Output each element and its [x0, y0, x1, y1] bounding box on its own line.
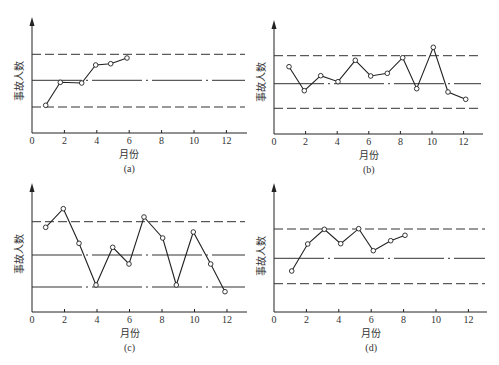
- x-tick-label: 4: [336, 314, 341, 325]
- x-tick-label: 0: [272, 314, 277, 325]
- panel-b-label: (b): [363, 164, 375, 176]
- data-point-marker: [160, 236, 165, 241]
- x-tick-label: 6: [127, 314, 132, 325]
- data-point-marker: [223, 289, 228, 294]
- panel-a-series: [43, 56, 129, 108]
- panel-c-data-line: [46, 209, 225, 292]
- data-point-marker: [58, 80, 63, 85]
- data-point-marker: [414, 86, 419, 91]
- panel-c-control-lines: [32, 222, 245, 287]
- x-tick-label: 2: [62, 135, 67, 146]
- data-point-marker: [400, 55, 405, 60]
- panel-d-y-axis-title: 事故人数: [255, 236, 267, 276]
- data-point-marker: [108, 61, 113, 66]
- data-point-marker: [305, 242, 310, 247]
- x-tick-label: 10: [190, 314, 200, 325]
- x-tick-label: 0: [272, 136, 277, 147]
- y-axis-arrow-icon: [30, 17, 35, 26]
- data-point-marker: [174, 283, 179, 288]
- panel-d-data-line: [292, 229, 405, 271]
- data-point-marker: [127, 262, 132, 267]
- data-point-marker: [93, 63, 98, 68]
- panel-d-x-axis-title: 月份: [361, 328, 381, 339]
- panel-b-x-axis-title: 月份: [359, 150, 379, 161]
- control-chart-figure: 024681012 事故人数 月份 (a) 024681012 事故人数 月份 …: [0, 0, 499, 365]
- panel-c-axes: 024681012: [30, 183, 248, 325]
- panel-b-data-line: [289, 47, 466, 99]
- data-point-marker: [61, 206, 66, 211]
- data-point-marker: [43, 225, 48, 230]
- panel-a-y-axis-title: 事故人数: [13, 61, 25, 101]
- panel-c-y-axis-title: 事故人数: [13, 234, 25, 274]
- data-point-marker: [322, 227, 327, 232]
- panel-a-label: (a): [124, 163, 135, 175]
- x-tick-label: 4: [335, 136, 340, 147]
- data-point-marker: [385, 71, 390, 76]
- panel-c-x-axis-title: 月份: [120, 328, 140, 339]
- x-tick-label: 10: [189, 135, 199, 146]
- x-tick-label: 10: [431, 314, 441, 325]
- panel-b: 024681012 事故人数 月份 (b): [255, 20, 483, 176]
- x-tick-label: 2: [62, 314, 67, 325]
- panel-b-control-lines: [274, 56, 481, 109]
- panel-a: 024681012 事故人数 月份 (a): [13, 17, 247, 175]
- panel-a-x-axis-title: 月份: [119, 149, 139, 160]
- panel-a-control-lines: [32, 54, 245, 107]
- x-tick-label: 10: [427, 136, 437, 147]
- y-axis-arrow-icon: [30, 183, 35, 192]
- x-tick-label: 4: [94, 135, 99, 146]
- data-point-marker: [94, 283, 99, 288]
- x-tick-label: 6: [127, 135, 132, 146]
- data-point-marker: [208, 262, 213, 267]
- y-axis-arrow-icon: [272, 20, 277, 29]
- panel-d-control-lines: [274, 229, 485, 284]
- data-point-marker: [353, 58, 358, 63]
- data-point-marker: [431, 45, 436, 50]
- data-point-marker: [191, 230, 196, 235]
- y-axis-arrow-icon: [272, 183, 277, 192]
- panel-d: 024681012 事故人数 月份 (d): [255, 183, 487, 354]
- x-tick-label: 12: [463, 314, 473, 325]
- data-point-marker: [356, 226, 361, 231]
- panel-c-label: (c): [124, 342, 135, 354]
- data-point-marker: [403, 233, 408, 238]
- x-tick-label: 2: [303, 136, 308, 147]
- data-point-marker: [446, 90, 451, 95]
- panel-b-series: [287, 45, 468, 102]
- x-tick-label: 8: [160, 314, 165, 325]
- data-point-marker: [142, 215, 147, 220]
- data-point-marker: [287, 64, 292, 69]
- data-point-marker: [110, 245, 115, 250]
- x-tick-label: 0: [30, 135, 35, 146]
- data-point-marker: [368, 74, 373, 79]
- x-tick-label: 12: [222, 314, 232, 325]
- x-tick-label: 6: [366, 136, 371, 147]
- data-point-marker: [371, 248, 376, 253]
- x-tick-label: 12: [221, 135, 231, 146]
- panel-b-y-axis-title: 事故人数: [255, 62, 267, 102]
- x-tick-label: 8: [398, 136, 403, 147]
- panel-d-series: [289, 226, 407, 273]
- data-point-marker: [289, 269, 294, 274]
- x-tick-label: 0: [30, 314, 35, 325]
- data-point-marker: [77, 241, 82, 246]
- data-point-marker: [338, 241, 343, 246]
- x-tick-label: 2: [304, 314, 309, 325]
- data-point-marker: [125, 56, 130, 61]
- data-point-marker: [463, 97, 468, 102]
- data-point-marker: [43, 103, 48, 108]
- data-point-marker: [336, 79, 341, 84]
- x-tick-label: 4: [95, 314, 100, 325]
- x-tick-label: 6: [369, 314, 374, 325]
- x-tick-label: 8: [159, 135, 164, 146]
- panel-c: 024681012 事故人数 月份 (c): [13, 183, 247, 354]
- x-tick-label: 8: [401, 314, 406, 325]
- data-point-marker: [302, 88, 307, 93]
- panel-d-axes: 024681012: [272, 183, 488, 325]
- data-point-marker: [318, 73, 323, 78]
- data-point-marker: [388, 238, 393, 243]
- x-tick-label: 12: [459, 136, 469, 147]
- panel-c-series: [43, 206, 227, 294]
- data-point-marker: [79, 81, 84, 86]
- panel-d-label: (d): [365, 342, 377, 354]
